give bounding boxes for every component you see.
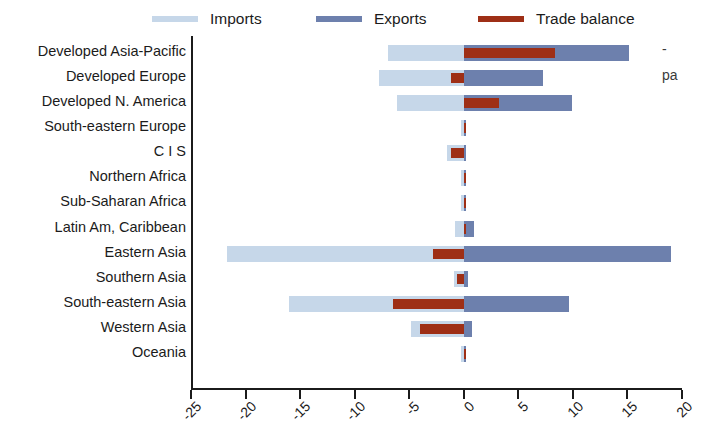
chart-row [191,166,682,191]
chart-row [191,266,682,291]
x-tick-label-9: 20 [649,398,696,442]
legend-item-imports[interactable]: Imports [152,8,262,30]
category-label-12: Oceania [0,344,186,360]
x-tick-mark-3 [354,390,356,399]
x-axis-line [191,388,682,390]
chart-legend: ImportsExportsTrade balance [0,8,704,30]
x-tick-mark-1 [245,390,247,399]
category-axis-labels: Developed Asia-PacificDeveloped EuropeDe… [0,36,186,388]
bar-imports [388,45,463,61]
chart-row [191,241,682,266]
bar-balance [464,123,467,133]
legend-swatch-icon [316,16,362,22]
chart-row [191,90,682,115]
x-tick-label-8: 15 [594,398,641,442]
chart-row [191,65,682,90]
category-label-11: Western Asia [0,319,186,335]
bar-exports [464,296,569,312]
bar-balance [464,349,467,359]
x-tick-label-6: 5 [485,398,532,442]
legend-label: Trade balance [536,8,635,30]
x-tick-label-5: 0 [430,398,477,442]
chart-root: ImportsExportsTrade balance Developed As… [0,0,704,442]
bar-exports [464,321,473,337]
category-label-0: Developed Asia-Pacific [0,43,186,59]
x-tick-label-2: -15 [267,398,314,442]
bar-balance [420,324,464,334]
bar-balance [464,98,499,108]
right-caption-line2: pa [662,62,702,88]
bar-balance [464,173,467,183]
bar-balance [457,274,464,284]
right-cut-off-caption: - pa [662,36,702,88]
category-label-6: Sub-Saharan Africa [0,193,186,209]
chart-row [191,191,682,216]
chart-row [191,342,682,367]
legend-swatch-icon [478,16,524,22]
category-label-9: Southern Asia [0,269,186,285]
bar-balance [464,224,467,234]
legend-swatch-icon [152,16,198,22]
x-tick-label-1: -20 [212,398,259,442]
bar-balance [451,148,464,158]
right-caption-line1: - [662,36,702,62]
legend-item-trade-balance[interactable]: Trade balance [478,8,635,30]
chart-row [191,40,682,65]
x-tick-label-7: 10 [540,398,587,442]
bar-exports [464,271,468,287]
bar-exports [464,246,671,262]
chart-row [191,317,682,342]
category-label-2: Developed N. America [0,93,186,109]
legend-label: Imports [210,8,262,30]
x-tick-label-4: -5 [376,398,423,442]
bar-balance [393,299,464,309]
bar-balance [451,73,464,83]
plot-area [191,36,682,388]
category-label-10: South-eastern Asia [0,294,186,310]
legend-item-exports[interactable]: Exports [316,8,427,30]
x-tick-label-0: -25 [158,398,205,442]
category-label-5: Northern Africa [0,168,186,184]
bar-balance [464,198,467,208]
bar-imports [227,246,464,262]
bar-imports [397,95,464,111]
bar-exports [464,145,467,161]
chart-row [191,216,682,241]
bar-exports [464,70,544,86]
legend-label: Exports [374,8,427,30]
bar-balance [464,48,556,58]
category-label-8: Eastern Asia [0,244,186,260]
chart-row [191,291,682,316]
x-tick-label-3: -10 [321,398,368,442]
category-label-1: Developed Europe [0,68,186,84]
chart-row [191,115,682,140]
category-label-7: Latin Am, Caribbean [0,219,186,235]
bar-balance [433,249,464,259]
category-label-3: South-eastern Europe [0,118,186,134]
category-label-4: C I S [0,143,186,159]
chart-row [191,141,682,166]
bar-imports [455,221,464,237]
